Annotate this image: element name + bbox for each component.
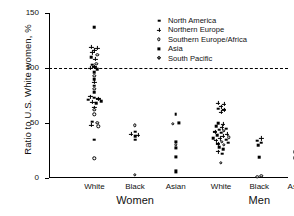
- legend-marker-open-circle-icon: [157, 38, 160, 41]
- data-point: [93, 26, 96, 29]
- legend-item-2: Southern Europe/Africa: [156, 35, 247, 44]
- data-point: [227, 142, 230, 145]
- data-point: [256, 175, 259, 178]
- data-point: [222, 143, 225, 146]
- x-axis-group-men: Men: [249, 194, 270, 206]
- legend-label: Northern Europe: [168, 25, 224, 34]
- data-point: [90, 56, 93, 59]
- data-point: [174, 147, 177, 150]
- y-axis-title: Ratio to U.S. White women, %: [22, 10, 33, 170]
- legend-marker-filled-plus-icon: [157, 28, 161, 32]
- data-point: [174, 170, 177, 173]
- data-point: [218, 128, 221, 131]
- legend-marker-filled-square-icon: [158, 19, 161, 22]
- data-point: [88, 66, 92, 70]
- legend-label: Southern Europe/Africa: [168, 35, 247, 44]
- data-point: [134, 135, 137, 138]
- data-point: [221, 153, 224, 156]
- data-point: [93, 108, 96, 111]
- x-axis-category-women-white: White: [84, 182, 104, 191]
- y-tick-0: 0: [45, 178, 49, 179]
- data-point: [256, 139, 259, 142]
- data-point: [93, 57, 97, 61]
- data-point: [134, 138, 137, 141]
- y-tick-50: 50: [45, 123, 49, 124]
- y-tick-150: 150: [45, 13, 49, 14]
- data-point: [174, 156, 177, 159]
- scatter-chart-figure: Ratio to U.S. White women, % 050100150 W…: [0, 0, 294, 216]
- data-point: [217, 122, 220, 125]
- data-point: [257, 144, 260, 147]
- data-point: [96, 68, 99, 71]
- data-point: [171, 122, 174, 125]
- data-point: [293, 150, 294, 153]
- data-point: [216, 150, 220, 154]
- y-tick-100: 100: [45, 68, 49, 69]
- data-point: [87, 99, 90, 102]
- data-point: [259, 136, 263, 140]
- data-point: [227, 136, 230, 139]
- x-axis-category-women-asian: Asian: [166, 182, 186, 191]
- legend-marker-open-diamond-icon: [157, 56, 162, 61]
- legend-marker-filled-square-large-icon: [157, 47, 160, 50]
- data-point: [90, 100, 94, 104]
- data-point: [136, 133, 140, 137]
- data-point: [225, 138, 228, 141]
- y-tick-label-150: 150: [26, 9, 39, 17]
- y-tick-label-100: 100: [26, 64, 39, 72]
- data-point: [129, 132, 133, 136]
- x-axis-category-women-black: Black: [125, 182, 145, 191]
- legend-label: Asia: [168, 44, 183, 53]
- data-point: [93, 138, 96, 141]
- data-point: [96, 53, 99, 56]
- data-point: [258, 156, 261, 159]
- data-point: [219, 110, 223, 114]
- data-point: [215, 125, 218, 128]
- data-point: [93, 91, 96, 94]
- reference-line-100: [49, 68, 288, 69]
- chart-legend: North AmericaNorthern EuropeSouthern Eur…: [156, 16, 247, 63]
- data-point: [222, 148, 225, 151]
- x-axis-category-men-asian: Asian: [288, 182, 294, 191]
- data-point: [177, 121, 180, 124]
- data-point: [133, 123, 136, 126]
- legend-label: North America: [168, 16, 216, 25]
- data-point: [218, 146, 221, 149]
- data-point: [100, 100, 103, 103]
- data-point: [93, 156, 96, 159]
- legend-item-1: Northern Europe: [156, 25, 247, 34]
- y-tick-label-0: 0: [35, 174, 39, 182]
- data-point: [89, 123, 93, 127]
- data-point: [90, 51, 94, 55]
- x-axis-category-men-black: Black: [250, 182, 270, 191]
- legend-item-0: North America: [156, 16, 247, 25]
- data-point: [93, 112, 96, 115]
- legend-item-3: Asia: [156, 44, 247, 53]
- data-point: [93, 96, 96, 99]
- data-point: [260, 142, 263, 145]
- x-axis-category-men-white: White: [211, 182, 231, 191]
- data-point: [97, 125, 100, 128]
- y-axis-line: [49, 13, 50, 178]
- x-axis-line: [49, 177, 288, 178]
- data-point: [293, 157, 294, 160]
- data-point: [95, 102, 98, 105]
- legend-item-4: South Pacific: [156, 54, 247, 63]
- legend-label: South Pacific: [168, 54, 212, 63]
- x-axis-group-women: Women: [116, 194, 154, 206]
- data-point: [174, 113, 177, 116]
- y-tick-label-50: 50: [30, 119, 39, 127]
- data-point: [219, 161, 222, 164]
